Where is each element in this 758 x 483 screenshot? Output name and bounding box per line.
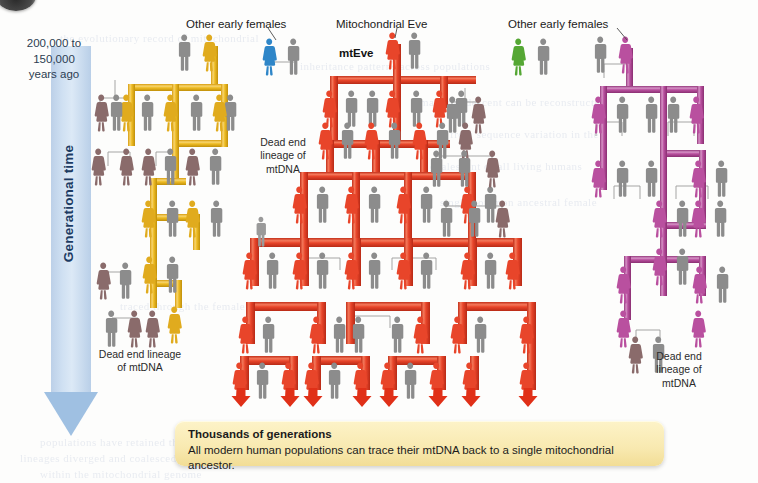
dead-end-center-line-1: Dead end [252,136,314,149]
dead-end-left-line-2: of mtDNA [86,361,194,374]
label-mteve: mtEve [339,47,374,59]
label-other-early-females-right: Other early females [508,17,608,32]
label-dead-end-left: Dead end lineage of mtDNA [86,348,194,375]
dead-end-right-line-2: lineage of [644,363,714,376]
lineage-continues-arrows [232,388,538,407]
label-mitochondrial-eve: Mitochondrial Eve [336,17,427,32]
dead-end-right-line-1: Dead end [644,350,714,363]
label-dead-end-center: Dead end lineage of mtDNA [252,136,314,176]
diagram-canvas: the evolutionary record of mitochondrial… [0,0,758,483]
caption-title: Thousands of generations [188,427,651,442]
pedigree-drawing [0,0,758,483]
label-dead-end-right: Dead end lineage of mtDNA [644,350,714,390]
dead-end-center-line-3: mtDNA [252,163,314,176]
summary-caption-box: Thousands of generations All modern huma… [175,421,664,466]
label-other-early-females-left: Other early females [186,17,286,32]
dead-end-center-line-2: lineage of [252,149,314,162]
caption-body: All modern human populations can trace t… [188,443,651,474]
dead-end-left-line-1: Dead end lineage [86,348,194,361]
dead-end-right-line-3: mtDNA [644,377,714,390]
